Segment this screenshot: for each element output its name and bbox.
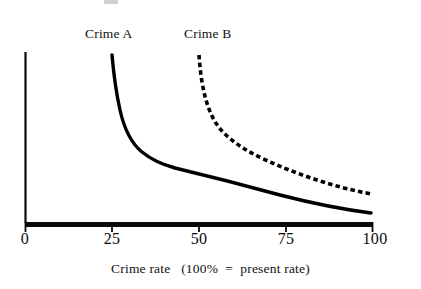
x-tick-label-0: 0: [21, 230, 29, 248]
plot-area: [0, 0, 421, 289]
x-axis-caption: Crime rate (100% = present rate): [0, 261, 421, 277]
x-tick-label-75: 75: [278, 230, 295, 248]
x-tick-label-100: 100: [363, 230, 388, 248]
x-tick-label-50: 50: [191, 230, 208, 248]
x-tick-label-25: 25: [104, 230, 121, 248]
curve-crime-b: [199, 55, 372, 194]
crime-rate-figure: Crime A Crime B 0 25 50 75 100 Crime rat…: [0, 0, 421, 289]
curve-crime-a: [112, 55, 371, 213]
